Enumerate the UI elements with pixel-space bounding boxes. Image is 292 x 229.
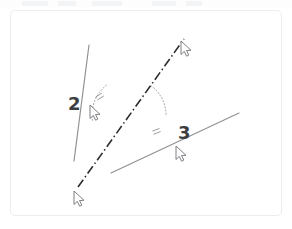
toolbar-chip — [22, 1, 48, 6]
geometry-figure — [11, 11, 282, 216]
toolbar-chip — [58, 1, 76, 6]
diagram-screenshot: 2 3 — [0, 0, 292, 229]
cursor-on-line-2[interactable] — [90, 105, 100, 120]
toolbar-chip — [186, 1, 202, 6]
cursor-on-transversal-top[interactable] — [181, 41, 191, 56]
cursor-on-transversal-bottom[interactable] — [74, 191, 84, 206]
angle-arc-lower-right — [151, 86, 166, 115]
angle-label-3: 3 — [178, 124, 191, 142]
arc-2-tick-marks — [153, 129, 160, 135]
top-toolbar-strip — [0, 0, 292, 7]
angle-label-2: 2 — [68, 95, 81, 113]
toolbar-chip — [152, 1, 176, 6]
arc-1-tick-marks — [96, 93, 104, 100]
cursor-on-line-3[interactable] — [176, 146, 186, 161]
diagram-canvas-card: 2 3 — [10, 10, 282, 216]
gray-line-3 — [111, 113, 239, 173]
toolbar-chip — [92, 1, 122, 6]
